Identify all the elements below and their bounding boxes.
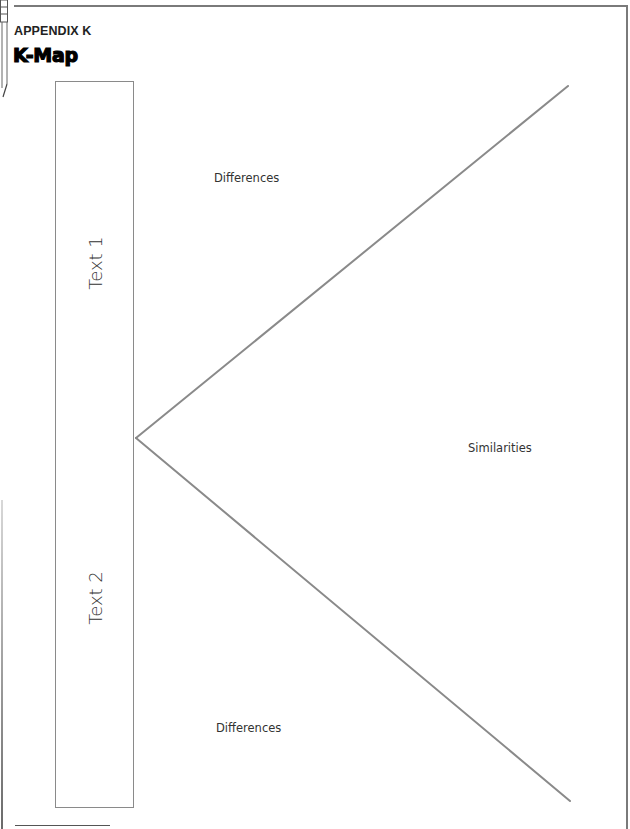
similarities-label: Similarities: [468, 441, 532, 455]
pencil-icon: [0, 0, 9, 98]
appendix-label: APPENDIX K: [14, 24, 91, 38]
text-2-label: Text 2: [85, 571, 106, 625]
page-frame-left-border: [1, 500, 3, 829]
top-differences-label: Differences: [214, 171, 279, 185]
page-frame-top-border: [14, 5, 627, 7]
text-1-label: Text 1: [85, 236, 106, 290]
page-title: K-Map: [13, 44, 78, 66]
text-comparison-box: [55, 81, 134, 808]
upper-k-line: [136, 86, 568, 438]
footer-rule: [15, 825, 110, 826]
page-frame-right-border: [626, 5, 628, 829]
lower-k-line: [136, 438, 570, 801]
bottom-differences-label: Differences: [216, 721, 281, 735]
